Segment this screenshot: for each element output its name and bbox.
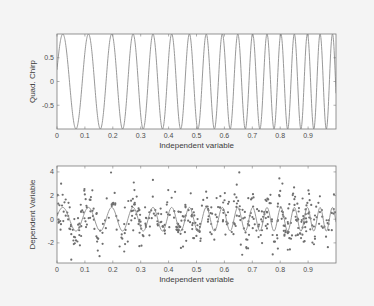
data-point (90, 196, 92, 198)
data-point (206, 197, 208, 199)
data-point (264, 199, 266, 201)
data-point (134, 217, 136, 219)
data-point (127, 240, 129, 242)
data-point (166, 211, 168, 213)
data-point (295, 219, 297, 221)
data-point (205, 191, 207, 193)
data-point (133, 189, 135, 191)
data-point (313, 218, 315, 220)
data-point (211, 233, 213, 235)
data-point (295, 216, 297, 218)
data-point (130, 219, 132, 221)
data-point (277, 203, 279, 205)
data-point (102, 223, 104, 225)
data-point (273, 241, 275, 243)
data-point (177, 211, 179, 213)
data-point (239, 219, 241, 221)
data-point (307, 189, 309, 191)
data-point (57, 203, 59, 205)
data-point (69, 206, 71, 208)
data-point (308, 193, 310, 195)
data-point (74, 236, 76, 238)
data-point (325, 236, 327, 238)
data-point (237, 200, 239, 202)
data-point (142, 234, 144, 236)
data-point (317, 202, 319, 204)
data-point (238, 171, 240, 173)
data-point (242, 217, 244, 219)
data-point (86, 223, 88, 225)
data-point (319, 195, 321, 197)
data-point (154, 214, 156, 216)
data-point (83, 188, 85, 190)
data-point (248, 234, 250, 236)
data-point (227, 211, 229, 213)
data-point (61, 204, 63, 206)
data-point (96, 240, 98, 242)
data-point (297, 234, 299, 236)
data-point (175, 226, 177, 228)
data-point (267, 198, 269, 200)
data-point (157, 224, 159, 226)
data-point (98, 255, 100, 257)
x-tick-label: 0 (55, 132, 59, 139)
data-point (200, 237, 202, 239)
data-point (313, 243, 315, 245)
data-point (191, 224, 193, 226)
data-point (110, 171, 112, 173)
data-point (331, 229, 333, 231)
data-point (112, 202, 114, 204)
data-point (266, 227, 268, 229)
data-point (114, 192, 116, 194)
data-point (305, 230, 307, 232)
data-point (116, 229, 118, 231)
data-point (63, 211, 65, 213)
data-point (83, 217, 85, 219)
data-point (327, 246, 329, 248)
data-point (309, 199, 311, 201)
data-point (65, 215, 67, 217)
data-point (119, 245, 121, 247)
data-point (162, 226, 164, 228)
data-point (240, 244, 242, 246)
data-point (182, 246, 184, 248)
data-point (287, 221, 289, 223)
data-point (179, 226, 181, 228)
data-point (145, 217, 147, 219)
data-point (164, 233, 166, 235)
data-point (84, 220, 86, 222)
data-point (130, 200, 132, 202)
data-point (160, 213, 162, 215)
data-point (124, 232, 126, 234)
data-point (185, 240, 187, 242)
data-point (207, 221, 209, 223)
data-point (288, 237, 290, 239)
data-point (294, 196, 296, 198)
data-point (132, 209, 134, 211)
data-point (166, 204, 168, 206)
data-point (58, 221, 60, 223)
y-tick-label: 0 (50, 78, 54, 85)
data-point (276, 237, 278, 239)
data-point (210, 212, 212, 214)
data-point (326, 219, 328, 221)
data-point (148, 234, 150, 236)
data-point (233, 200, 235, 202)
x-tick-label: 0.5 (192, 132, 202, 139)
x-tick-label: 0.3 (136, 266, 146, 273)
data-point (276, 234, 278, 236)
data-point (184, 206, 186, 208)
data-point (201, 205, 203, 207)
data-point (223, 199, 225, 201)
data-point (302, 215, 304, 217)
data-point (314, 238, 316, 240)
data-point (247, 197, 249, 199)
data-point (169, 214, 171, 216)
data-point (127, 200, 129, 202)
data-point (270, 202, 272, 204)
data-point (319, 211, 321, 213)
data-point (191, 228, 193, 230)
data-point (304, 226, 306, 228)
data-point (235, 225, 237, 227)
y-tick-label: -0.5 (42, 102, 54, 109)
